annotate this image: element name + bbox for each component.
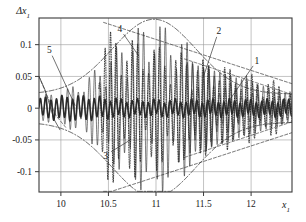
chart-figure: 1010.51111.512-0.1-0.0500.050.1Δx1x11234… — [0, 0, 306, 222]
y-axis-tick-label: 0 — [27, 104, 32, 114]
curve-label-5: 5 — [47, 45, 52, 55]
curve-label-3: 3 — [103, 151, 108, 161]
chart-svg: 1010.51111.512-0.1-0.0500.050.1Δx1x11234… — [0, 0, 306, 222]
x-axis-tick-label: 11 — [151, 199, 160, 209]
x-axis-tick-label: 11.5 — [195, 199, 212, 209]
y-axis-tick-label: -0.05 — [12, 135, 32, 145]
x-axis-tick-label: 12 — [246, 199, 256, 209]
x-axis-tick-label: 10 — [56, 199, 66, 209]
curve-label-4: 4 — [117, 24, 122, 34]
y-axis-tick-label: -0.1 — [17, 167, 32, 177]
x-axis-tick-label: 10.5 — [100, 199, 117, 209]
y-axis-tick-label: 0.05 — [15, 72, 32, 82]
y-axis-tick-label: 0.1 — [20, 40, 32, 50]
curve-label-1: 1 — [254, 56, 259, 66]
curve-label-2: 2 — [216, 26, 221, 36]
